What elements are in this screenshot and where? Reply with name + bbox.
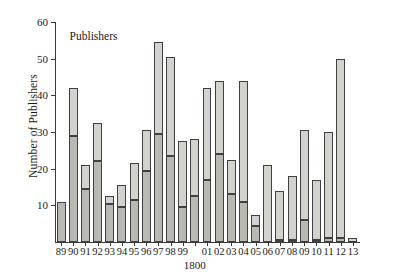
- x-tick-label: 05: [250, 247, 261, 258]
- bar: [239, 81, 248, 242]
- plot-area: 102030405060 899091929394959697989901020…: [55, 22, 359, 242]
- bar: [300, 130, 309, 242]
- bar: [178, 141, 187, 242]
- y-tick-mark: [51, 132, 56, 133]
- bar-segment-upper: [312, 180, 321, 241]
- bar-segment-lower: [117, 207, 126, 242]
- x-tick-label: 09: [299, 247, 310, 258]
- x-tick-label: 01: [202, 247, 213, 258]
- y-tick-label: 50: [37, 53, 48, 64]
- y-tick-mark: [51, 169, 56, 170]
- x-axis-origin-label: 1800: [184, 259, 206, 271]
- bar: [227, 160, 236, 243]
- bar-segment-lower: [105, 204, 114, 243]
- bar-segment-lower: [93, 161, 102, 242]
- bar-segment-upper: [69, 88, 78, 136]
- bar: [93, 123, 102, 242]
- bar-segment-upper: [105, 196, 114, 203]
- bar-segment-lower: [166, 156, 175, 242]
- x-tick-label: 91: [80, 247, 91, 258]
- bar-segment-upper: [275, 191, 284, 241]
- bar-segment-lower: [69, 136, 78, 242]
- x-tick-label: 96: [141, 247, 152, 258]
- bar-segment-upper: [251, 215, 260, 226]
- bar-segment-upper: [166, 57, 175, 156]
- x-tick-label: 02: [214, 247, 225, 258]
- bar: [324, 132, 333, 242]
- bar: [215, 81, 224, 242]
- bar-segment-upper: [81, 165, 90, 189]
- bar: [130, 163, 139, 242]
- y-tick-label: 30: [37, 127, 48, 138]
- bar-segment-lower: [190, 196, 199, 242]
- bar-segment-lower: [312, 240, 321, 242]
- bar-segment-lower: [300, 220, 309, 242]
- bar: [288, 176, 297, 242]
- bar-segment-upper: [263, 165, 272, 242]
- bar-segment-upper: [336, 59, 345, 239]
- x-tick-label: 93: [104, 247, 115, 258]
- x-tick-label: 98: [165, 247, 176, 258]
- bar: [105, 196, 114, 242]
- y-tick-mark: [51, 95, 56, 96]
- bar-segment-upper: [239, 81, 248, 202]
- x-tick-mark: [195, 242, 196, 246]
- y-tick-label: 40: [37, 90, 48, 101]
- bar-segment-lower: [203, 180, 212, 242]
- bar: [117, 185, 126, 242]
- bar-segment-upper: [348, 238, 357, 242]
- bar-segment-lower: [239, 202, 248, 242]
- bar-segment-lower: [324, 238, 333, 242]
- bar: [142, 130, 151, 242]
- bar-segment-lower: [288, 240, 297, 242]
- x-tick-label: 90: [68, 247, 79, 258]
- bar: [312, 180, 321, 242]
- bar-segment-lower: [178, 207, 187, 242]
- bar-segment-upper: [324, 132, 333, 238]
- bar-segment-upper: [190, 139, 199, 196]
- bar: [348, 238, 357, 242]
- x-tick-label: 08: [287, 247, 298, 258]
- bar-segment-upper: [142, 130, 151, 170]
- x-tick-label: 06: [263, 247, 274, 258]
- bar-segment-lower: [336, 238, 345, 242]
- x-tick-label: 12: [336, 247, 347, 258]
- bar-segment-upper: [227, 160, 236, 195]
- y-tick-mark: [51, 205, 56, 206]
- x-tick-label: 89: [56, 247, 67, 258]
- bar: [57, 202, 66, 242]
- x-tick-label: 13: [348, 247, 359, 258]
- x-tick-label: 92: [92, 247, 103, 258]
- y-tick-label: 60: [37, 17, 48, 28]
- bar: [336, 59, 345, 242]
- y-tick-mark: [51, 59, 56, 60]
- bar-segment-lower: [81, 189, 90, 242]
- x-tick-label: 94: [117, 247, 128, 258]
- bar-segment-upper: [117, 185, 126, 207]
- bar: [154, 42, 163, 242]
- bar-segment-upper: [288, 176, 297, 240]
- bar: [275, 191, 284, 242]
- bar-segment-upper: [154, 42, 163, 134]
- bar: [251, 215, 260, 243]
- x-tick-label: 95: [129, 247, 140, 258]
- x-tick-label: 03: [226, 247, 237, 258]
- bar-segment-lower: [215, 154, 224, 242]
- bar: [81, 165, 90, 242]
- publishers-bar-chart: Number of Publishers 102030405060 899091…: [0, 0, 414, 278]
- chart-annotation: Publishers: [70, 30, 118, 42]
- x-tick-label: 11: [324, 247, 334, 258]
- bar-segment-lower: [130, 200, 139, 242]
- x-tick-label: 10: [311, 247, 322, 258]
- y-tick-mark: [51, 22, 56, 23]
- bar-segment-upper: [300, 130, 309, 220]
- bar: [69, 88, 78, 242]
- bar-segment-lower: [275, 240, 284, 242]
- y-tick-label: 20: [37, 163, 48, 174]
- bar-segment-upper: [215, 81, 224, 154]
- bar-segment-upper: [130, 163, 139, 200]
- bar-segment-upper: [93, 123, 102, 162]
- bar-segment-upper: [178, 141, 187, 207]
- bar-segment-lower: [142, 171, 151, 243]
- bar: [263, 165, 272, 242]
